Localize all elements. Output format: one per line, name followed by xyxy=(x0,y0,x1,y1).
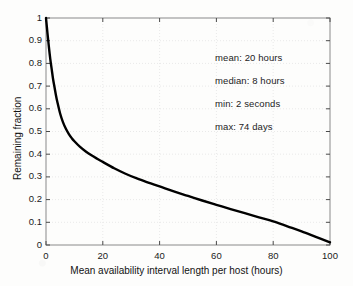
y-tick-label: 1 xyxy=(8,12,42,23)
annotation-max: max: 74 days xyxy=(215,121,273,132)
y-axis-title: Remaining fraction xyxy=(12,97,23,180)
data-line-remaining-fraction xyxy=(46,18,330,242)
annotation-median: median: 8 hours xyxy=(215,75,285,86)
y-tick-label: 0 xyxy=(8,239,42,250)
x-tick-label: 40 xyxy=(140,250,180,261)
x-tick-label: 80 xyxy=(253,250,293,261)
chart-canvas xyxy=(0,0,353,286)
annotation-min: min: 2 seconds xyxy=(215,98,280,109)
y-tick-label: 0.2 xyxy=(8,193,42,204)
x-tick-label: 60 xyxy=(196,250,236,261)
x-axis-title: Mean availability interval length per ho… xyxy=(0,265,353,276)
annotation-mean: mean: 20 hours xyxy=(215,52,282,63)
y-tick-label: 0.8 xyxy=(8,57,42,68)
figure-container: 00.10.20.30.40.50.60.70.80.91 0204060801… xyxy=(0,0,353,286)
x-tick-label: 20 xyxy=(83,250,123,261)
x-tick-label: 100 xyxy=(310,250,350,261)
x-tick-label: 0 xyxy=(26,250,66,261)
y-tick-label: 0.1 xyxy=(8,216,42,227)
y-tick-label: 0.7 xyxy=(8,80,42,91)
y-tick-label: 0.9 xyxy=(8,34,42,45)
